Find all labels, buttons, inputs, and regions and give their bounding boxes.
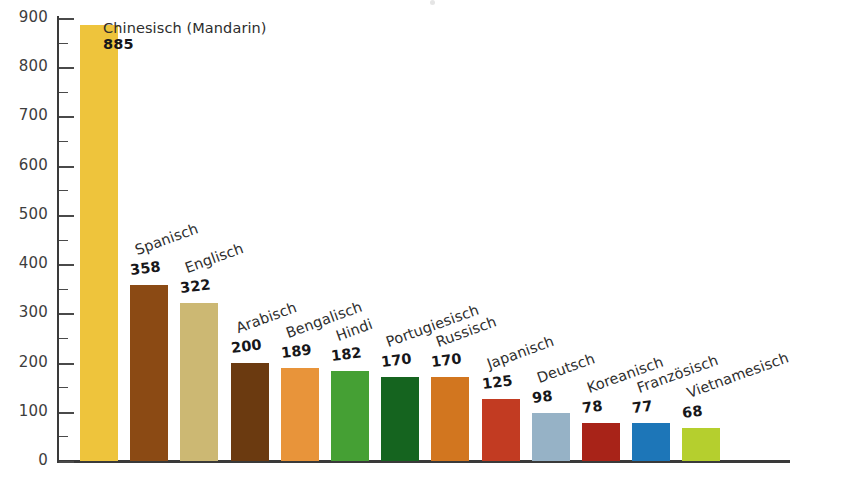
bar[interactable] [381,377,419,461]
bar-value-label: 189 [280,342,312,360]
y-tick-major [59,18,74,20]
bar-value-label: 182 [330,346,362,364]
speck-artifact [430,0,435,5]
bar[interactable] [682,428,720,461]
y-tick-minor [59,289,68,290]
bar-value-label: 358 [129,259,161,277]
y-axis-tick-label-wrap: 100 [0,412,52,413]
bar[interactable] [482,399,520,461]
bar[interactable] [431,377,469,461]
bar[interactable] [331,371,369,461]
y-axis-tick-label: 200 [0,355,48,370]
bar[interactable] [130,285,168,461]
y-axis-tick-label: 100 [0,404,48,419]
bar[interactable] [231,363,269,461]
y-tick-minor [59,190,68,191]
bar-value-label: 98 [531,388,553,405]
bar-value-label: 322 [180,277,212,295]
y-axis-tick-label-wrap: 800 [0,67,52,68]
y-tick-major [59,412,74,414]
y-axis-tick-label-wrap: 700 [0,116,52,117]
bar[interactable] [582,423,620,461]
y-axis-tick-label-wrap: 400 [0,264,52,265]
bar-value-label: 170 [380,352,412,370]
bar[interactable] [180,303,218,461]
y-tick-minor [59,43,68,44]
y-axis-tick-label: 800 [0,59,48,74]
y-tick-major [59,67,74,69]
bar-value-label: 77 [631,399,653,416]
bar[interactable] [632,423,670,461]
y-axis-tick-label: 600 [0,158,48,173]
y-tick-minor [59,141,68,142]
bar-category-label: Spanisch [133,221,200,257]
bar-category-label: Englisch [183,240,245,275]
y-axis-tick-label: 400 [0,256,48,271]
y-axis-tick-label: 300 [0,305,48,320]
bar-category-label: Chinesisch (Mandarin) [103,21,267,36]
y-tick-major [59,461,74,463]
y-tick-major [59,313,74,315]
y-axis-tick-label: 700 [0,108,48,123]
y-axis-tick-label: 900 [0,10,48,25]
y-tick-major [59,116,74,118]
y-tick-minor [59,240,68,241]
y-tick-minor [59,436,68,437]
y-axis-tick-label-wrap: 600 [0,166,52,167]
y-tick-minor [59,338,68,339]
bar-value-label: 885 [103,37,134,52]
bar-value-label: 68 [682,403,704,420]
y-tick-minor [59,92,68,93]
y-axis-tick-label: 500 [0,207,48,222]
bar-value-label: 170 [431,352,463,370]
bar-value-label: 200 [230,337,262,355]
y-axis-tick-label-wrap: 0 [0,461,52,462]
y-tick-major [59,166,74,168]
bar-value-label: 78 [581,398,603,415]
y-axis-tick-label: 0 [0,453,48,468]
bar-chart: 0100200300400500600700800900 885Chinesis… [0,0,867,477]
y-tick-minor [59,387,68,388]
y-axis-tick-label-wrap: 300 [0,313,52,314]
y-tick-major [59,215,74,217]
y-tick-major [59,264,74,266]
bar[interactable] [532,413,570,461]
bar[interactable] [281,368,319,461]
y-tick-major [59,363,74,365]
y-axis-tick-label-wrap: 900 [0,18,52,19]
bar-value-label: 125 [481,374,513,392]
y-axis-tick-label-wrap: 500 [0,215,52,216]
y-axis-tick-label-wrap: 200 [0,363,52,364]
bar[interactable] [80,25,118,461]
